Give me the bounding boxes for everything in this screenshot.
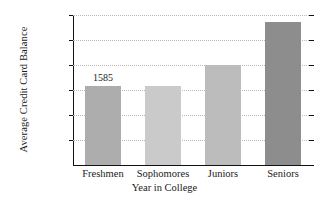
y-tick-left: [69, 65, 74, 66]
category-label: Seniors: [243, 168, 323, 179]
y-tick-right: [309, 140, 314, 141]
y-tick-right: [309, 65, 314, 66]
x-axis-title: Year in College: [0, 182, 329, 193]
y-axis-title: Average Credit Card Balance: [18, 15, 29, 165]
bar-value-label: 1585: [73, 72, 133, 83]
plot-area: $500$1000$1500$2000$2500$3000 1585 Fresh…: [73, 15, 313, 165]
bar-chart: Average Credit Card Balance $500$1000$15…: [0, 0, 329, 204]
y-tick-left: [69, 40, 74, 41]
y-tick-right: [309, 115, 314, 116]
y-tick-left: [69, 115, 74, 116]
gridline: [73, 15, 313, 17]
y-tick-left: [69, 140, 74, 141]
bar: [145, 86, 181, 165]
x-axis-line: [73, 165, 314, 166]
bar: [205, 65, 241, 165]
bar: [85, 86, 121, 165]
bar: [265, 22, 301, 165]
y-tick-right: [309, 15, 314, 16]
y-tick-left: [69, 15, 74, 16]
y-tick-left: [69, 90, 74, 91]
y-tick-right: [309, 90, 314, 91]
y-tick-right: [309, 40, 314, 41]
